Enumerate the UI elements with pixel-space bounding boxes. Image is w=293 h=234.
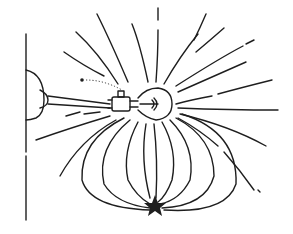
bulb-arm [48,96,110,108]
pointer-dot [80,78,84,82]
light-bulb-icon [138,88,172,120]
converging-field-lines [82,114,236,210]
bulb-socket [108,91,138,111]
wall-mount-dome [26,70,44,120]
field-diagram [0,0,293,234]
diagram-canvas [0,0,293,234]
